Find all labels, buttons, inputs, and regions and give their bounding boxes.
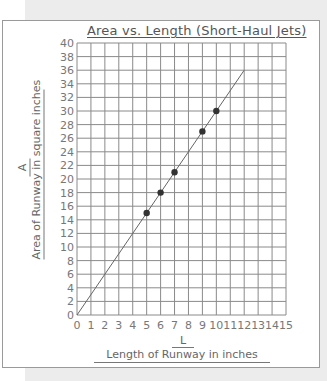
x-tick-label: 11 — [223, 319, 237, 332]
x-tick-label: 13 — [251, 319, 265, 332]
y-tick-label: 4 — [67, 282, 74, 295]
y-tick-label: 24 — [60, 146, 74, 159]
y-tick-label: 34 — [60, 78, 74, 91]
data-point — [199, 128, 205, 134]
y-tick-label: 12 — [60, 227, 74, 240]
x-tick-label: 12 — [237, 319, 251, 332]
x-tick-label: 15 — [279, 319, 293, 332]
y-axis-ticks: 0246810121416182022242628303234363840 — [60, 37, 74, 322]
x-tick-label: 6 — [157, 319, 164, 332]
y-axis-variable: A — [16, 159, 31, 177]
x-tick-label: 14 — [265, 319, 279, 332]
y-tick-label: 26 — [60, 132, 74, 145]
data-point — [143, 210, 149, 216]
x-tick-label: 0 — [74, 319, 81, 332]
y-tick-label: 2 — [67, 295, 74, 308]
x-axis-label: Length of Runway in inches — [94, 348, 270, 363]
plot-area: 0246810121416182022242628303234363840 01… — [0, 0, 327, 381]
data-point — [213, 108, 219, 114]
x-tick-label: 3 — [115, 319, 122, 332]
y-tick-label: 10 — [60, 241, 74, 254]
y-tick-label: 38 — [60, 51, 74, 64]
data-point — [171, 169, 177, 175]
y-tick-label: 28 — [60, 119, 74, 132]
x-tick-label: 1 — [87, 319, 94, 332]
y-tick-label: 36 — [60, 64, 74, 77]
y-tick-label: 6 — [67, 268, 74, 281]
y-tick-label: 20 — [60, 173, 74, 186]
x-tick-label: 8 — [185, 319, 192, 332]
x-tick-label: 7 — [171, 319, 178, 332]
x-axis-ticks: 0123456789101112131415 — [74, 319, 294, 332]
x-tick-label: 10 — [209, 319, 223, 332]
x-axis-variable: L — [172, 334, 194, 348]
grid — [77, 43, 286, 315]
y-tick-label: 40 — [60, 37, 74, 50]
x-tick-label: 9 — [199, 319, 206, 332]
y-axis-label: Area of Runway in square inches — [30, 90, 45, 260]
y-tick-label: 8 — [67, 255, 74, 268]
y-tick-label: 18 — [60, 187, 74, 200]
y-tick-label: 22 — [60, 159, 74, 172]
data-point — [157, 189, 163, 195]
y-tick-label: 14 — [60, 214, 74, 227]
y-tick-label: 30 — [60, 105, 74, 118]
y-tick-label: 16 — [60, 200, 74, 213]
y-tick-label: 32 — [60, 91, 74, 104]
x-tick-label: 2 — [101, 319, 108, 332]
x-tick-label: 4 — [129, 319, 136, 332]
x-tick-label: 5 — [143, 319, 150, 332]
